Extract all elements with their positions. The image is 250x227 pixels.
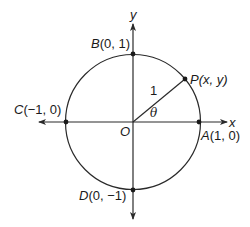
point-c-label: C(−1, 0) <box>14 102 61 117</box>
point-b-name: B <box>91 36 100 51</box>
point-d-name: D <box>79 188 88 203</box>
origin-label: O <box>120 124 130 139</box>
point-p <box>183 77 188 82</box>
point-p-label: P(x, y) <box>190 72 228 87</box>
point-c <box>64 120 69 125</box>
point-p-name: P <box>190 72 199 87</box>
point-a-name: A <box>200 128 210 143</box>
radius-label: 1 <box>150 83 157 98</box>
angle-theta-label: θ <box>150 106 158 120</box>
point-b <box>131 52 136 57</box>
point-p-coords: (x, y) <box>199 72 228 87</box>
point-b-coords: (0, 1) <box>100 36 130 51</box>
y-axis-label: y <box>129 7 138 22</box>
point-a <box>197 120 202 125</box>
point-c-coords: (−1, 0) <box>23 102 61 117</box>
radius-segment-op <box>133 79 185 122</box>
point-a-coords: (1, 0) <box>210 128 240 143</box>
point-d <box>131 188 136 193</box>
point-a-label: A(1, 0) <box>200 128 240 143</box>
unit-circle-diagram: y x O 1 θ B(0, 1) P(x, y) C(−1, 0) A(1, … <box>0 0 250 227</box>
point-d-coords: (0, −1) <box>88 188 126 203</box>
point-b-label: B(0, 1) <box>91 36 130 51</box>
point-d-label: D(0, −1) <box>79 188 126 203</box>
